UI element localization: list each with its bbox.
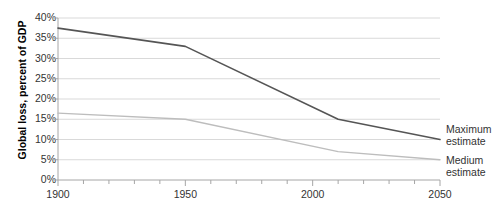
series-label-medium-line2: estimate <box>446 167 486 179</box>
x-tick-label: 2050 <box>417 188 463 200</box>
series-label-maximum-line1: Maximum <box>446 124 492 136</box>
x-tick-label: 2000 <box>290 188 336 200</box>
gridlines <box>58 18 440 160</box>
x-tick-label: 1950 <box>162 188 208 200</box>
series-lines <box>58 28 440 160</box>
series-line-maximum <box>58 28 440 139</box>
chart-container: Global loss, percent of GDP 0%5%10%15%20… <box>0 0 503 210</box>
x-tick-label: 1900 <box>35 188 81 200</box>
plot-area <box>0 0 503 210</box>
series-label-maximum-line2: estimate <box>446 136 492 148</box>
series-label-medium-line1: Medium <box>446 155 486 167</box>
series-label-medium: Medium estimate <box>446 155 486 178</box>
series-label-maximum: Maximum estimate <box>446 124 492 147</box>
x-axis-ticks <box>58 180 440 186</box>
series-line-medium <box>58 113 440 160</box>
